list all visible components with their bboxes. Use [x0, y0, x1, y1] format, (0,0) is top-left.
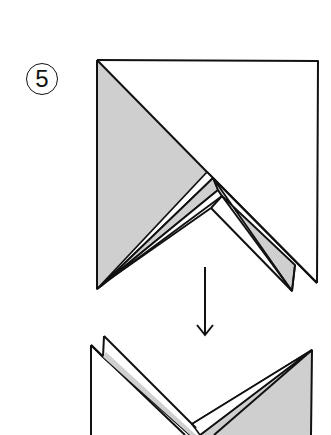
origami-diagram: 5: [0, 0, 331, 435]
figure-after-fold: [91, 336, 312, 435]
down-arrow-icon: [197, 267, 213, 335]
figure-before-fold: [97, 60, 318, 291]
diagram-svg: [0, 0, 331, 435]
